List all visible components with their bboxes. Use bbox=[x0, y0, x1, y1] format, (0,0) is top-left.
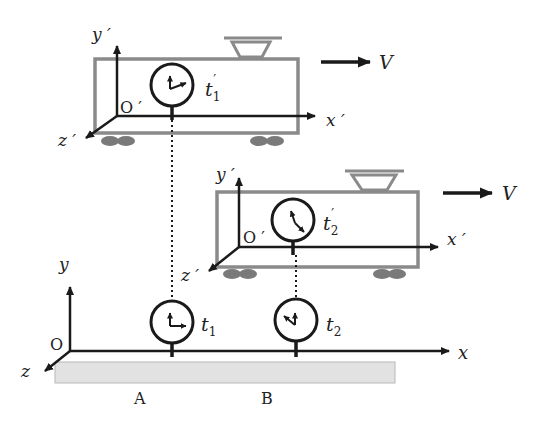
ground-strip bbox=[55, 362, 395, 383]
y-prime-label: y ′ bbox=[91, 24, 111, 44]
clock-t1-label: t1 bbox=[201, 313, 216, 339]
train-body bbox=[95, 59, 298, 133]
velocity-label-2: V bbox=[502, 182, 518, 204]
x-label: x bbox=[458, 342, 468, 363]
clock-icon bbox=[275, 299, 317, 357]
x-prime-label: x ′ bbox=[326, 110, 345, 130]
x-prime-label: x ′ bbox=[447, 229, 466, 249]
clock-icon bbox=[151, 301, 193, 357]
origin-label: O bbox=[50, 335, 63, 354]
wheels-icon bbox=[223, 269, 406, 279]
origin-prime-label: O ′ bbox=[120, 98, 142, 117]
pantograph-icon bbox=[345, 171, 404, 190]
position-b-label: B bbox=[261, 389, 273, 408]
y-label: y bbox=[58, 254, 69, 274]
z-prime-label: z ′ bbox=[180, 265, 199, 285]
diagram-canvas: y ′ x ′ z ′ O ′ t1′ V y ′ x ′ bbox=[0, 0, 540, 426]
z-label: z bbox=[20, 361, 31, 381]
train-1: y ′ x ′ z ′ O ′ t1′ bbox=[57, 24, 345, 150]
clock-t2-label: t2 bbox=[326, 313, 341, 339]
origin-prime-label: O ′ bbox=[243, 228, 265, 247]
wheels-icon bbox=[101, 136, 284, 146]
position-a-label: A bbox=[133, 389, 146, 408]
y-prime-label: y ′ bbox=[215, 164, 235, 184]
velocity-label-1: V bbox=[379, 51, 395, 73]
train-2: y ′ x ′ z ′ O ′ t2′ bbox=[180, 164, 466, 285]
z-prime-label: z ′ bbox=[57, 130, 76, 150]
pantograph-icon bbox=[224, 38, 282, 57]
